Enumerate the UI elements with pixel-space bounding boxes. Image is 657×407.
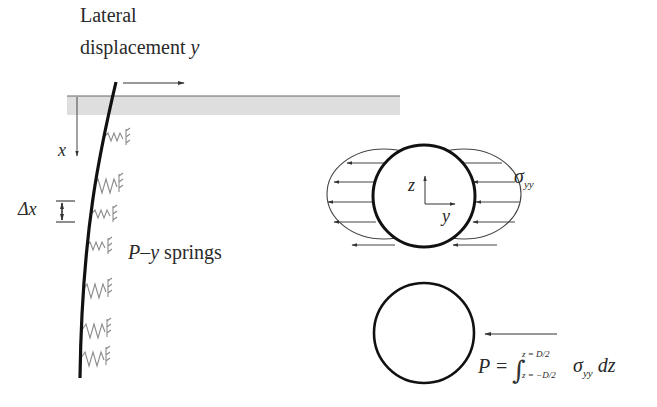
- axis-z-label: z: [408, 175, 415, 196]
- ground-surface: [67, 96, 400, 115]
- displacement-label: displacement y: [80, 36, 199, 59]
- springs-var: P–y: [128, 241, 159, 263]
- sigma-symbol: σ: [514, 165, 524, 187]
- formula-integrand: σyy dz: [573, 354, 615, 379]
- formula-dz: dz: [598, 354, 616, 376]
- delta-x-label: Δx: [18, 199, 37, 220]
- springs-text: springs: [164, 241, 222, 263]
- springs-label: P–y springs: [128, 241, 222, 264]
- formula-lhs: P =: [478, 355, 508, 378]
- formula-sigma: σ: [573, 354, 583, 376]
- delta-x-bracket: [56, 201, 75, 222]
- diagram-canvas: ∫: [0, 0, 657, 407]
- formula-lhs-text: P =: [478, 355, 508, 377]
- sigma-sub: yy: [524, 178, 534, 190]
- lateral-label: Lateral: [80, 4, 137, 27]
- pile-cross-section: [374, 283, 474, 383]
- displacement-text: displacement: [80, 36, 186, 58]
- axis-y-label: y: [442, 206, 450, 227]
- stress-distribution: [327, 145, 521, 247]
- formula-lower-limit: z = −D/2: [522, 370, 556, 380]
- sigma-label: σyy: [514, 165, 534, 190]
- displacement-var: y: [191, 36, 200, 58]
- pile: [80, 82, 116, 378]
- formula-upper-limit: z = D/2: [522, 349, 550, 359]
- formula-sigma-sub: yy: [583, 367, 593, 379]
- depth-label: x: [58, 140, 66, 161]
